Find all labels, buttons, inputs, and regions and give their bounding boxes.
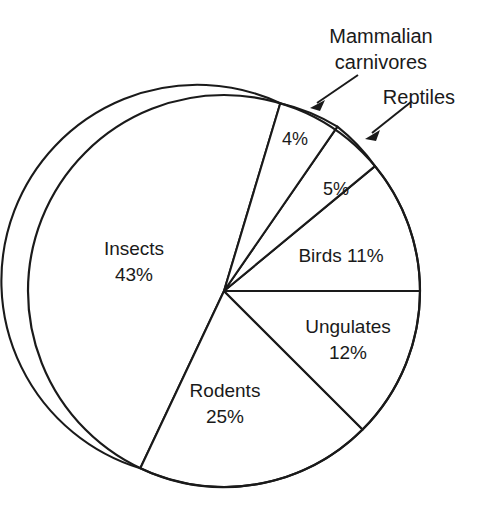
mammalian-carnivores-leader-line — [317, 75, 358, 103]
label-ungulates-name: Ungulates — [305, 316, 391, 337]
label-mammalian-carnivores-line2: carnivores — [335, 51, 427, 73]
label-ungulates-percent: 12% — [329, 342, 367, 363]
label-reptiles: Reptiles — [383, 86, 455, 108]
pie-chart-figure: Mammalian carnivores Reptiles 4% 5% Bird… — [0, 0, 478, 517]
pie-chart-canvas: Mammalian carnivores Reptiles 4% 5% Bird… — [0, 0, 478, 517]
label-rodents-percent: 25% — [206, 406, 244, 427]
label-mammalian-carnivores-line1: Mammalian — [329, 25, 432, 47]
label-mammalian-carnivores-percent: 4% — [282, 129, 308, 149]
label-reptiles-percent: 5% — [323, 179, 349, 199]
label-birds: Birds 11% — [298, 245, 383, 266]
label-rodents-name: Rodents — [190, 380, 261, 401]
label-insects-percent: 43% — [115, 264, 153, 285]
label-insects-name: Insects — [104, 238, 164, 259]
